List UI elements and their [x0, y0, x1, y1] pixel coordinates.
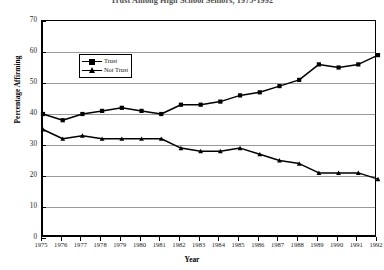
- legend-marker-square-icon: [82, 57, 102, 66]
- data-point: [100, 109, 104, 113]
- y-axis-tick-label: 40: [7, 110, 37, 117]
- data-point: [179, 103, 183, 107]
- data-point: [199, 103, 203, 107]
- chart-title: Trust Among High School Seniors, 1975-19…: [0, 0, 384, 6]
- legend-item-not-trust: Not Trust: [82, 66, 128, 75]
- y-axis-tick: [41, 238, 46, 239]
- data-point: [120, 106, 124, 110]
- y-axis-tick-label: 0: [7, 234, 37, 241]
- data-point: [159, 112, 163, 116]
- data-point: [238, 93, 242, 97]
- x-axis-title: Year: [0, 255, 384, 264]
- data-point: [376, 53, 380, 57]
- legend-marker-triangle-icon: [82, 66, 102, 75]
- data-point: [61, 118, 65, 122]
- data-point: [139, 109, 143, 113]
- y-axis-tick-label: 60: [7, 48, 37, 55]
- data-point: [258, 90, 262, 94]
- y-axis-tick-label: 70: [7, 17, 37, 24]
- y-axis-tick-label: 20: [7, 172, 37, 179]
- y-axis-tick-labels: 010203040506070: [4, 20, 37, 237]
- y-axis-tick-label: 30: [7, 141, 37, 148]
- plot-area: Trust Not Trust: [41, 20, 376, 237]
- legend-item-trust: Trust: [82, 57, 128, 66]
- x-axis-tick-labels: 1975197619771978197919801981198219831984…: [41, 241, 376, 253]
- data-point: [218, 100, 222, 104]
- data-point: [41, 112, 45, 116]
- legend-label: Trust: [102, 58, 117, 64]
- legend-label: Not Trust: [102, 67, 128, 73]
- data-point: [356, 62, 360, 66]
- chart-figure: Trust Among High School Seniors, 1975-19…: [0, 0, 384, 270]
- x-axis-tick-label: 1992: [363, 241, 384, 249]
- data-point: [336, 65, 340, 69]
- data-point: [277, 84, 281, 88]
- data-point: [41, 127, 46, 131]
- y-axis-tick-label: 10: [7, 203, 37, 210]
- chart-legend: Trust Not Trust: [79, 54, 132, 78]
- data-point: [317, 62, 321, 66]
- y-axis-tick-label: 50: [7, 79, 37, 86]
- series-line-not-trust: [43, 130, 378, 180]
- data-point: [297, 78, 301, 82]
- data-point: [80, 112, 84, 116]
